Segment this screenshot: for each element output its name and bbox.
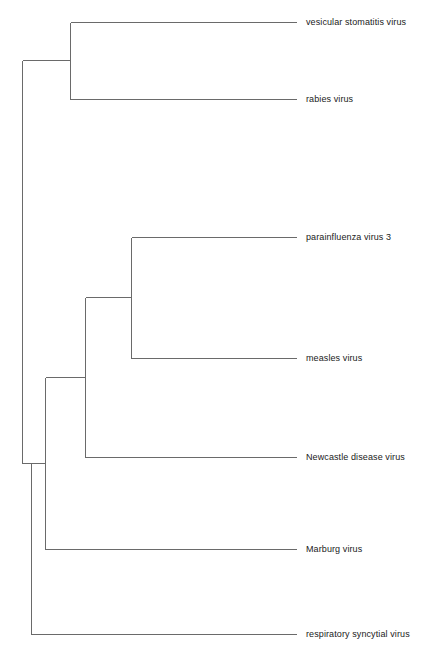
tree-branches [0,0,429,658]
phylogenetic-tree-figure: vesicular stomatitis virus rabies virus … [0,0,429,658]
tip-label-parainfluenza-virus-3: parainfluenza virus 3 [306,232,391,242]
tip-label-marburg-virus: Marburg virus [306,544,362,554]
tip-label-measles-virus: measles virus [306,353,362,363]
branch-lines [23,23,298,635]
tip-label-rabies-virus: rabies virus [306,94,353,104]
tip-label-vesicular-stomatitis-virus: vesicular stomatitis virus [306,17,406,27]
tip-label-respiratory-syncytial-virus: respiratory syncytial virus [306,629,410,639]
tip-label-newcastle-disease-virus: Newcastle disease virus [306,452,405,462]
